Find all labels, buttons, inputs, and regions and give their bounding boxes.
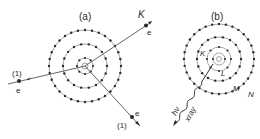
electron-dot [104,72,106,74]
shell-k [213,53,225,65]
electron-dot [252,65,254,67]
electron-dot [91,100,93,102]
electron-dot [114,85,116,87]
electron-dot [80,86,82,88]
electron-dot [225,23,227,25]
electron-dot [101,79,103,81]
electron-dot [230,58,232,60]
electron-dot [193,33,195,35]
shell-label-n: N [248,90,254,99]
electron-dot [196,58,198,60]
electron-dot [201,72,203,74]
electron-dot [77,29,79,31]
electron-dot [218,70,220,72]
shell-label-k: K [200,49,206,58]
panel-b-shells [183,23,255,95]
panel-b: (b) K L M N hν xray [170,11,255,126]
electron-dot [238,65,240,67]
shell-label-l: L [221,69,225,78]
electron-dot [119,58,121,60]
electron-dot [119,72,121,74]
electron-dot [183,58,185,60]
shell-label-m: M [233,84,240,93]
electron-dot [218,93,220,95]
electron-dot [252,51,254,53]
electron-dot [225,92,227,94]
electron-dot [104,95,106,97]
electron-dot [73,84,75,86]
electron-dot [235,72,237,74]
electron-dot [250,71,252,73]
electron-dot [120,65,122,67]
electron-dot [185,44,187,46]
photon-arrow-icon [173,120,178,126]
shell-m [197,37,241,81]
electron-dot [183,65,185,67]
scattered-electron-label: e [135,109,140,118]
electron-dot [250,44,252,46]
electron-dot [240,58,242,60]
electron-dot [109,39,111,41]
electron-dot [117,51,119,53]
electron-dot [48,58,50,60]
electron-dot [64,95,66,97]
electron-dot [212,58,214,60]
ejected-electron [144,24,148,28]
electron-dot [101,51,103,53]
electron-dot [193,83,195,85]
incoming-index-label: (1) [12,69,22,78]
electron-dot [98,32,100,34]
electron-dot [62,65,64,67]
electron-dot [67,79,69,81]
atom-ionization-diagram: (a) (1) e K e (1) e (b) K L M N hν xray [0,0,260,139]
electron-dot [88,86,90,88]
electron-dot [235,44,237,46]
electron-dot [78,71,80,73]
electron-dot [91,29,93,31]
electron-dot [95,46,97,48]
electron-dot [183,51,185,53]
electron-dot [207,39,209,41]
electron-dot [63,57,65,59]
electron-dot [222,79,224,81]
electron-dot [207,77,209,79]
electron-dot [247,38,249,40]
electron-dot [104,35,106,37]
electron-dot [189,77,191,79]
electron-dot [198,29,200,31]
electron-dot [104,57,106,59]
electron-dot [238,50,240,52]
electron-dot [211,92,213,94]
electron-dot [58,39,60,41]
electron-dot [226,49,228,51]
electron-dot [247,77,249,79]
nucleus-ring [217,57,222,62]
scattered-electron [130,115,134,119]
electron-dot [204,90,206,92]
electron-dot [117,79,119,81]
panel-a: (a) (1) e K e (1) e [8,9,152,130]
electron-dot [106,65,108,67]
electron-dot [70,98,72,100]
ejected-shell-label: K [138,9,146,20]
electron-dot [90,59,92,61]
electron-dot [76,65,78,67]
electron-dot [204,25,206,27]
electron-dot [237,29,239,31]
electron-dot [48,65,50,67]
electron-dot [54,85,56,87]
electron-dot [58,90,60,92]
electron-dot [218,23,220,25]
incoming-electron [17,79,21,83]
electron-dot [226,66,228,68]
electron-dot [222,36,224,38]
electron-dot [229,39,231,41]
electron-dot [84,57,86,59]
electron-dot [185,71,187,73]
electron-dot [63,72,65,74]
electron-dot [224,58,226,60]
electron-dot [229,77,231,79]
electron-dot [243,83,245,85]
electron-dot [201,44,203,46]
electron-dot [70,32,72,34]
